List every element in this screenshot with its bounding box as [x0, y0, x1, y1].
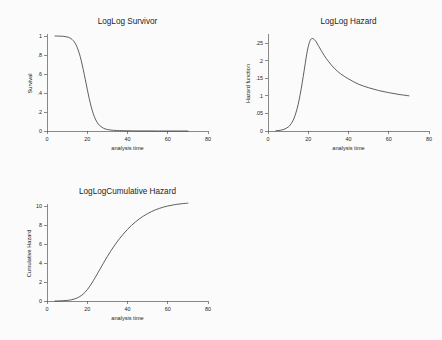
- y-axis-title: Hazard function: [245, 64, 251, 103]
- y-axis-title: Cumulative Hazard: [26, 230, 32, 278]
- y-tick-label: .4: [38, 90, 43, 96]
- chart-title: LogLog Hazard: [321, 17, 377, 26]
- chart-panel-cumulative-hazard: LogLogCumulative Hazard0246810020406080a…: [0, 170, 221, 340]
- x-tick-label: 20: [84, 306, 90, 312]
- y-tick-label: .05: [256, 110, 264, 116]
- y-tick-label: .8: [38, 52, 43, 58]
- data-curve: [276, 38, 409, 130]
- x-tick-label: 20: [305, 136, 311, 142]
- x-tick-label: 0: [267, 136, 270, 142]
- y-tick-label: 6: [39, 241, 42, 247]
- x-tick-label: 60: [165, 136, 171, 142]
- x-tick-label: 0: [46, 136, 49, 142]
- y-tick-label: 1: [39, 33, 42, 39]
- data-curve: [55, 203, 188, 301]
- x-tick-label: 80: [205, 136, 211, 142]
- y-tick-label: 0: [39, 298, 42, 304]
- x-axis-title: analysis time: [111, 145, 143, 151]
- chart-panel-empty: [221, 170, 442, 340]
- x-tick-label: 60: [386, 136, 392, 142]
- x-axis-title: analysis time: [332, 145, 364, 151]
- x-axis-title: analysis time: [111, 315, 143, 321]
- y-tick-label: .2: [259, 58, 264, 64]
- y-tick-label: .15: [256, 75, 264, 81]
- y-tick-label: .6: [38, 71, 43, 77]
- x-tick-label: 40: [125, 306, 131, 312]
- figure-canvas: LogLog Survivor0.2.4.6.81020406080analys…: [0, 0, 442, 340]
- y-tick-label: .25: [256, 40, 264, 46]
- chart-panel-survivor: LogLog Survivor0.2.4.6.81020406080analys…: [0, 0, 221, 170]
- chart-title: LogLogCumulative Hazard: [79, 187, 176, 196]
- x-tick-label: 40: [125, 136, 131, 142]
- chart-hazard: LogLog Hazard0.05.1.15.2.25020406080anal…: [221, 0, 442, 170]
- chart-survivor: LogLog Survivor0.2.4.6.81020406080analys…: [0, 0, 221, 170]
- x-tick-label: 20: [84, 136, 90, 142]
- y-tick-label: 4: [39, 260, 42, 266]
- y-tick-label: 0: [39, 128, 42, 134]
- chart-title: LogLog Survivor: [98, 17, 158, 26]
- y-tick-label: 8: [39, 222, 42, 228]
- data-curve: [55, 36, 188, 131]
- chart-panel-hazard: LogLog Hazard0.05.1.15.2.25020406080anal…: [221, 0, 442, 170]
- y-axis-title: Survival: [27, 74, 33, 94]
- x-tick-label: 80: [205, 306, 211, 312]
- x-tick-label: 40: [346, 136, 352, 142]
- y-tick-label: 0: [260, 128, 263, 134]
- x-tick-label: 60: [165, 306, 171, 312]
- chart-cumulative-hazard: LogLogCumulative Hazard0246810020406080a…: [0, 170, 221, 340]
- y-tick-label: .2: [38, 109, 43, 115]
- y-tick-label: 10: [36, 203, 42, 209]
- x-tick-label: 80: [426, 136, 432, 142]
- y-tick-label: .1: [259, 93, 264, 99]
- y-tick-label: 2: [39, 279, 42, 285]
- x-tick-label: 0: [46, 306, 49, 312]
